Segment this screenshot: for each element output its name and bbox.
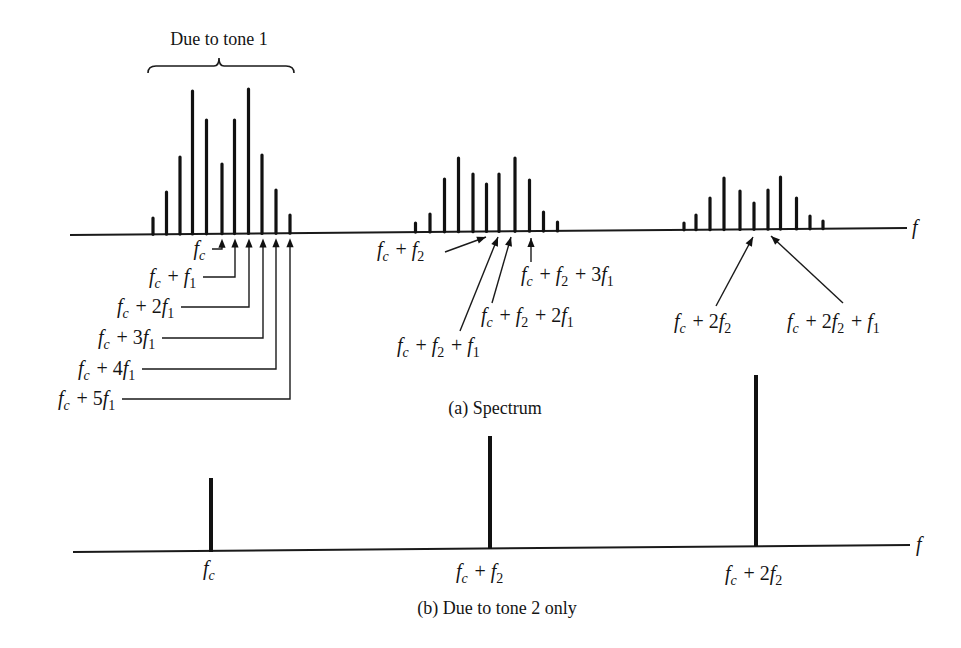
arrow-up-icon bbox=[245, 239, 252, 248]
axis-label-f-b: f bbox=[916, 533, 924, 556]
brace-title-due-to-tone-1: Due to tone 1 bbox=[170, 29, 267, 49]
annotation-label: fc + 5f1 bbox=[58, 387, 117, 413]
spectrum-figure: fc fc + f1 fc + 2f1 fc + 3f1 fc + 4f1 fc… bbox=[0, 0, 961, 648]
annotation-label: fc + f2 bbox=[377, 238, 426, 264]
annotation-label: fc bbox=[194, 237, 207, 263]
annotation-tone1-0: fc bbox=[194, 237, 226, 263]
annotation-label: fc + f1 bbox=[149, 265, 198, 291]
caption-b-due-to-tone-2-only: (b) Due to tone 2 only bbox=[417, 598, 576, 619]
tick-label-b: fc + 2f2 bbox=[725, 562, 784, 588]
brace-icon bbox=[148, 58, 294, 73]
annotation-label: fc + 3f1 bbox=[98, 326, 157, 352]
arrow-up-icon bbox=[272, 238, 279, 247]
arrow-icon bbox=[476, 237, 486, 244]
arrow-icon bbox=[527, 238, 534, 247]
arrow-icon bbox=[746, 237, 753, 247]
caption-a-spectrum: (a) Spectrum bbox=[448, 398, 541, 419]
tick-label-b: fc bbox=[203, 557, 216, 583]
arrow-up-icon bbox=[218, 239, 225, 248]
spectral-cluster-2 bbox=[416, 158, 558, 232]
tick-label-b: fc + f2 bbox=[456, 560, 505, 586]
annotation-label: fc + f2 + 2f1 bbox=[481, 304, 575, 330]
annotation-tone2-0: fc + f2 bbox=[377, 237, 486, 264]
arrow-up-icon bbox=[231, 239, 238, 248]
spectral-cluster-1 bbox=[153, 89, 290, 234]
axis-label-f-a: f bbox=[912, 216, 920, 239]
annotation-tone2-3: fc + f2 + 3f1 bbox=[521, 238, 615, 289]
spectrum-diagram: fc fc + f1 fc + 2f1 fc + 3f1 fc + 4f1 fc… bbox=[0, 0, 961, 648]
annotation-tone1-3: fc + 3f1 bbox=[98, 238, 267, 352]
annotation-label: fc + f2 + 3f1 bbox=[521, 263, 615, 289]
annotation-label: fc + 2f2 + f1 bbox=[787, 310, 881, 336]
arrow-up-icon bbox=[286, 238, 293, 247]
annotation-tone2-4: fc + 2f2 bbox=[674, 237, 753, 336]
annotation-label: fc + 2f1 bbox=[117, 295, 176, 321]
arrow-icon bbox=[491, 237, 498, 247]
arrow-up-icon bbox=[259, 238, 266, 247]
spectral-cluster-3 bbox=[684, 177, 823, 230]
annotation-label: fc + 4f1 bbox=[78, 357, 137, 383]
annotation-label: fc + f2 + f1 bbox=[397, 334, 481, 360]
annotation-label: fc + 2f2 bbox=[674, 310, 733, 336]
annotation-tone2-5: fc + 2f2 + f1 bbox=[771, 236, 881, 336]
panel-a-spectrum: fc fc + f1 fc + 2f1 fc + 3f1 fc + 4f1 fc… bbox=[58, 58, 907, 413]
arrow-icon bbox=[505, 237, 512, 247]
